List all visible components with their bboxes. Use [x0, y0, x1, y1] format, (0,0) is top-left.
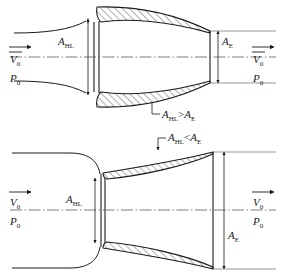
streamline-lower-top: [12, 153, 100, 174]
nacelle-upper-body-top: [97, 7, 210, 33]
panel-upper: AHL AE V0 P0 V0 P0: [9, 7, 276, 123]
nacelle-lower-body-bottom: [103, 242, 213, 269]
diagram-root: AHL AE V0 P0 V0 P0: [0, 0, 286, 275]
label-pressure-lower-right: P0: [252, 215, 264, 230]
leader-relation-upper: [152, 102, 160, 114]
label-inlet-area-upper: AHL: [57, 35, 74, 50]
nacelle-lower-body-top: [103, 152, 213, 179]
label-relation-upper: AHL>AE: [161, 108, 195, 123]
label-velocity-upper-left: V0: [10, 53, 21, 68]
label-velocity-lower-right: V0: [253, 196, 264, 211]
label-inlet-area-lower: AHL: [65, 193, 82, 208]
label-pressure-upper-right: P0: [252, 72, 264, 87]
streamline-upper-bottom: [14, 81, 86, 93]
nacelle-upper-body-bottom: [97, 81, 210, 107]
label-exit-area-lower: AE: [227, 229, 239, 244]
label-pressure-lower-left: P0: [9, 215, 21, 230]
streamline-upper-top: [14, 21, 86, 33]
label-pressure-upper-left: P0: [9, 72, 21, 87]
label-relation-lower: AHL<AE: [167, 131, 201, 146]
label-velocity-upper-right: V0: [253, 53, 264, 68]
label-velocity-lower-left: V0: [10, 196, 21, 211]
streamline-lower-bottom: [12, 247, 100, 268]
label-exit-area-upper: AE: [221, 35, 233, 50]
panel-lower: AHL AE V0 P0 V0 P0: [9, 131, 276, 269]
nacelle-inlet-diagram: AHL AE V0 P0 V0 P0: [0, 0, 286, 275]
